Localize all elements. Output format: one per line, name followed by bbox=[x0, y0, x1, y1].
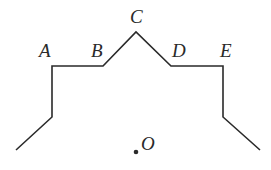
label-o: O bbox=[141, 133, 155, 154]
label-e: E bbox=[219, 40, 232, 61]
label-b: B bbox=[91, 40, 103, 61]
label-a: A bbox=[37, 40, 51, 61]
figure-svg: A B C D E O bbox=[0, 0, 271, 170]
label-d: D bbox=[171, 40, 186, 61]
label-c: C bbox=[130, 6, 143, 27]
diagram-canvas: A B C D E O bbox=[0, 0, 271, 170]
point-o-dot bbox=[134, 150, 139, 155]
